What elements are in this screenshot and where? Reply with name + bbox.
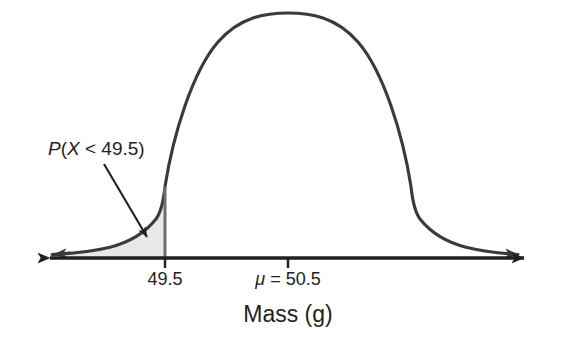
- annotation-relation: <: [80, 138, 102, 159]
- distribution-chart-svg: P(X < 49.5) 49.5 μ = 50.5 Mass (g): [0, 0, 574, 343]
- tick-label-mean: μ = 50.5: [254, 269, 320, 289]
- annotation-cutoff-value: 49.5: [101, 138, 138, 159]
- mean-value-text: = 50.5: [265, 269, 321, 289]
- mean-mu-symbol: μ: [254, 269, 265, 289]
- x-axis-title: Mass (g): [243, 301, 332, 327]
- annotation-leader-arrow: [104, 164, 147, 237]
- normal-curve: [52, 13, 518, 255]
- tick-label-cutoff: 49.5: [147, 269, 182, 289]
- normal-distribution-figure: P(X < 49.5) 49.5 μ = 50.5 Mass (g): [0, 0, 574, 343]
- curve-left-tail-arrow: [54, 253, 70, 255]
- annotation-p-symbol: P: [48, 138, 61, 159]
- probability-annotation-label: P(X < 49.5): [48, 138, 145, 159]
- annotation-close-paren: ): [138, 138, 144, 159]
